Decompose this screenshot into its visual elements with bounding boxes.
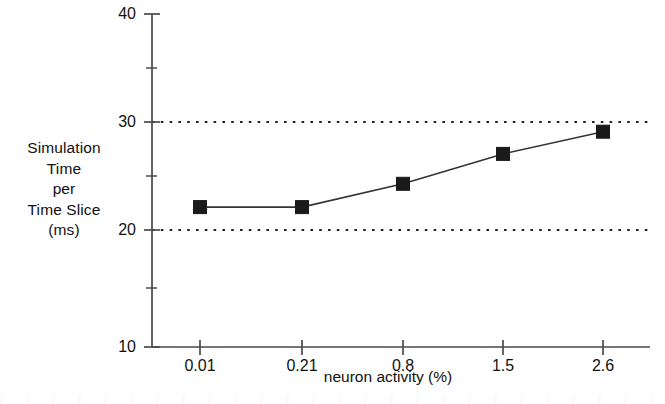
- x-tick-label-1: 0.01: [170, 357, 230, 375]
- y-axis-title-line-2: Time: [0, 159, 128, 180]
- x-tick-label-5: 2.6: [573, 357, 633, 375]
- data-point-marker: [497, 147, 510, 160]
- y-tick-label-20: 20: [96, 221, 136, 239]
- data-series-line: [200, 132, 603, 207]
- y-axis-title-line-3: per: [0, 179, 128, 200]
- y-tick-label-30: 30: [96, 113, 136, 131]
- data-point-marker: [597, 125, 610, 138]
- data-series-markers: [194, 125, 610, 213]
- y-tick-label-10: 10: [96, 338, 136, 356]
- data-point-marker: [194, 201, 207, 214]
- data-point-marker: [397, 177, 410, 190]
- y-tick-label-40: 40: [96, 5, 136, 23]
- y-axis-title-line-1: Simulation: [0, 138, 128, 159]
- y-axis-title-line-4: Time Slice: [0, 200, 128, 221]
- x-axis-title: neuron activity (%): [238, 368, 538, 386]
- data-point-marker: [296, 201, 309, 214]
- figure-container: Simulation Time per Time Slice (ms) 40 3…: [0, 0, 665, 404]
